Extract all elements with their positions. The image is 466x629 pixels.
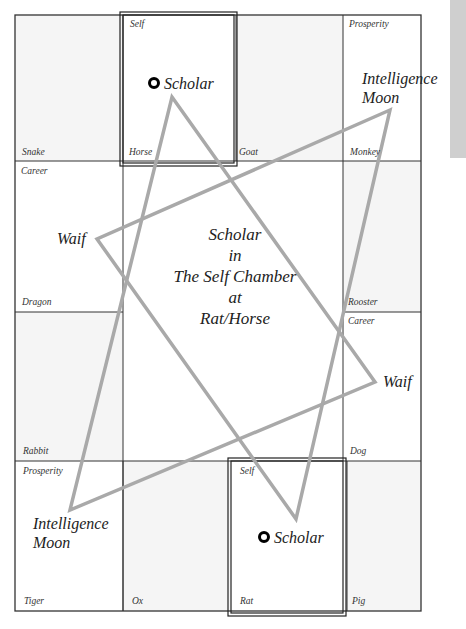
star-moon-monkey-line2: Moon <box>362 88 399 107</box>
chamber-label-rat: Self <box>240 466 254 476</box>
center-line: Scholar <box>130 224 340 245</box>
bullseye-icon <box>258 531 270 543</box>
star-waif-dog: Waif <box>383 372 412 391</box>
star-intelligence-monkey-line1: Intelligence <box>362 69 438 88</box>
animal-label-goat: Goat <box>239 147 258 157</box>
center-line: in <box>130 245 340 266</box>
animal-label-monkey: Monkey <box>350 147 380 157</box>
star-waif-dragon: Waif <box>57 229 86 248</box>
center-line: The Self Chamber <box>130 266 340 287</box>
cell-shade-rooster <box>343 161 420 312</box>
animal-label-dog: Dog <box>350 446 366 456</box>
animal-label-rat: Rat <box>240 596 253 606</box>
star-text: Scholar <box>274 529 324 546</box>
animal-label-rabbit: Rabbit <box>23 446 48 456</box>
animal-label-pig: Pig <box>352 596 365 606</box>
cell-shade-pig <box>347 461 421 611</box>
chamber-label-tiger: Prosperity <box>23 466 63 476</box>
center-line: at <box>130 287 340 308</box>
star-intelligence-tiger-line1: Intelligence <box>33 514 109 533</box>
animal-label-rooster: Rooster <box>348 297 378 307</box>
cell-shade-rabbit <box>15 312 123 461</box>
chamber-label-horse: Self <box>130 19 144 29</box>
chamber-label-dragon: Career <box>21 166 48 176</box>
chamber-label-monkey: Prosperity <box>349 19 389 29</box>
cell-shade-ox <box>123 461 230 611</box>
star-text: Scholar <box>164 75 214 92</box>
cell-shade-snake <box>15 15 123 161</box>
animal-label-ox: Ox <box>132 596 143 606</box>
animal-label-dragon: Dragon <box>22 297 52 307</box>
star-scholar-horse: Scholar <box>148 74 214 93</box>
animal-label-horse: Horse <box>129 147 152 157</box>
star-moon-tiger-line2: Moon <box>33 533 70 552</box>
star-scholar-rat: Scholar <box>258 528 324 547</box>
bullseye-icon <box>148 77 160 89</box>
center-description: Scholar in The Self Chamber at Rat/Horse <box>130 224 340 329</box>
center-line: Rat/Horse <box>130 308 340 329</box>
chamber-label-dog: Career <box>348 316 375 326</box>
animal-label-tiger: Tiger <box>24 596 44 606</box>
animal-label-snake: Snake <box>22 147 45 157</box>
